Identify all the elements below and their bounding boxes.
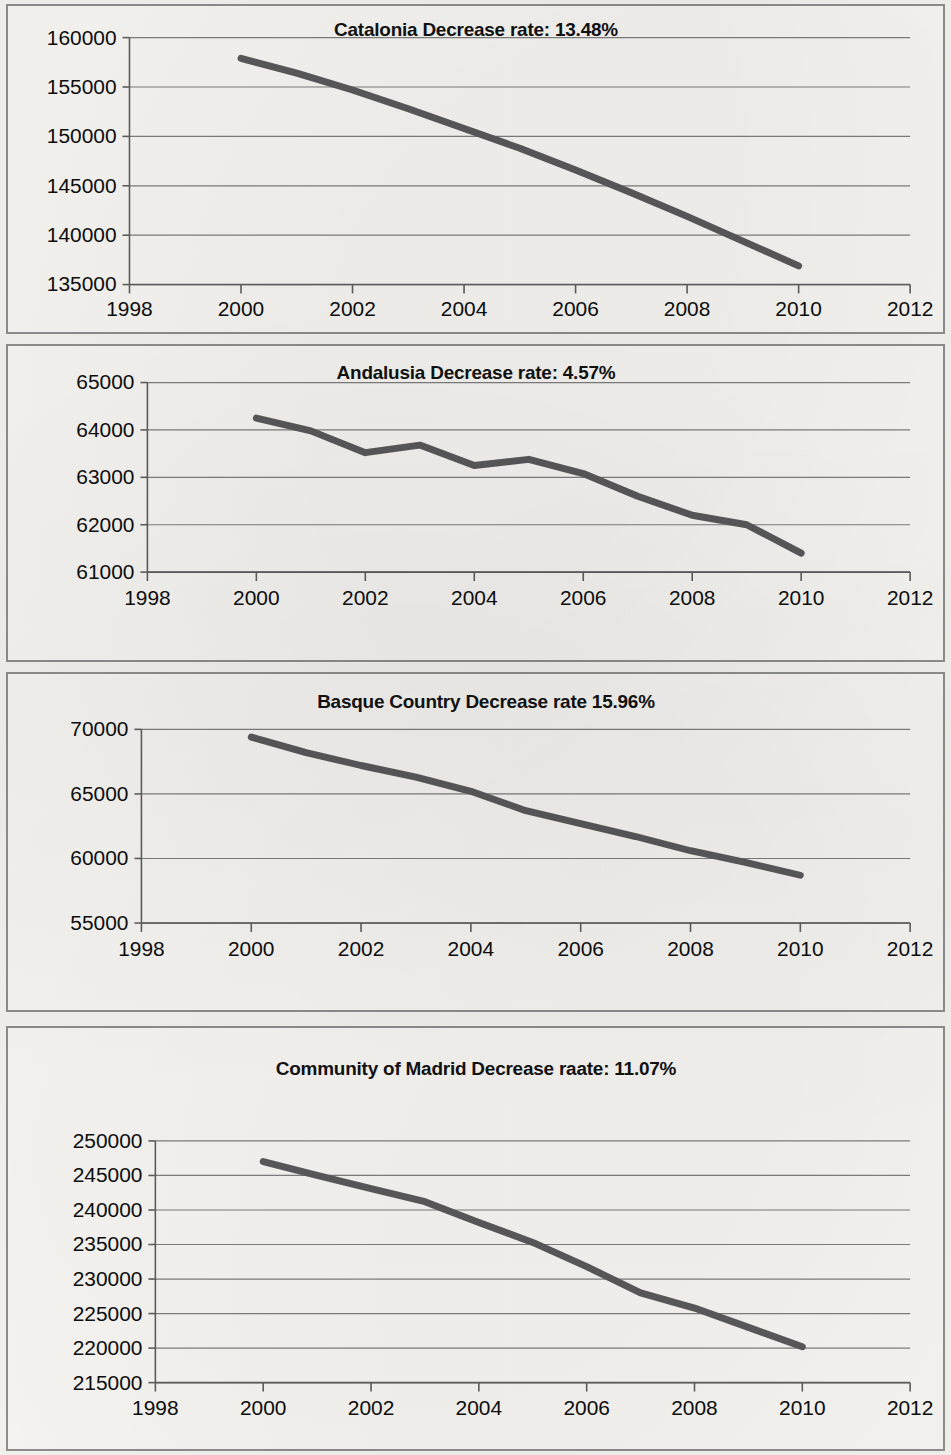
x-axis-tick-label: 2006 bbox=[557, 937, 604, 960]
x-axis-tick-label: 2000 bbox=[233, 586, 280, 609]
x-axis-tick-label: 2000 bbox=[228, 937, 275, 960]
x-axis-tick-label: 1998 bbox=[106, 297, 152, 320]
y-axis-tick-label: 215000 bbox=[73, 1371, 143, 1394]
chart-panel-basque: 5500060000650007000019982000200220042006… bbox=[6, 672, 945, 1012]
chart-panel-madrid: 2150002200002250002300002350002400002450… bbox=[6, 1026, 945, 1451]
community-of-madrid-line-chart: 2150002200002250002300002350002400002450… bbox=[8, 1028, 943, 1449]
data-series-line bbox=[251, 737, 800, 875]
y-axis-tick-label: 225000 bbox=[73, 1302, 143, 1325]
y-axis-tick-label: 55000 bbox=[70, 911, 128, 934]
chart-title: Andalusia Decrease rate: 4.57% bbox=[337, 362, 616, 383]
x-axis-tick-label: 2012 bbox=[887, 937, 934, 960]
x-axis-tick-label: 2010 bbox=[775, 297, 821, 320]
y-axis-tick-label: 65000 bbox=[76, 371, 134, 394]
x-axis-tick-label: 2010 bbox=[777, 937, 824, 960]
x-axis-tick-label: 2004 bbox=[441, 297, 487, 320]
chart-title: Catalonia Decrease rate: 13.48% bbox=[334, 19, 618, 40]
x-axis-tick-label: 2012 bbox=[887, 1396, 933, 1419]
y-axis-tick-label: 235000 bbox=[73, 1232, 143, 1255]
x-axis-tick-label: 2000 bbox=[240, 1396, 286, 1419]
y-axis-tick-label: 240000 bbox=[73, 1198, 143, 1221]
y-axis-tick-label: 145000 bbox=[47, 174, 117, 197]
y-axis-tick-label: 65000 bbox=[70, 782, 128, 805]
x-axis-tick-label: 2000 bbox=[218, 297, 264, 320]
x-axis-tick-label: 2002 bbox=[338, 937, 385, 960]
data-series-line bbox=[263, 1162, 802, 1347]
chart-title: Basque Country Decrease rate 15.96% bbox=[317, 691, 655, 712]
x-axis-tick-label: 2010 bbox=[778, 586, 825, 609]
y-axis-tick-label: 63000 bbox=[76, 465, 134, 488]
x-axis-tick-label: 2012 bbox=[887, 586, 934, 609]
chart-title: Community of Madrid Decrease raate: 11.0… bbox=[276, 1058, 677, 1079]
x-axis-tick-label: 2004 bbox=[448, 937, 495, 960]
y-axis-tick-label: 61000 bbox=[76, 560, 134, 583]
x-axis-tick-label: 2008 bbox=[667, 937, 714, 960]
basque-country-line-chart: 5500060000650007000019982000200220042006… bbox=[8, 674, 943, 1010]
x-axis-tick-label: 2010 bbox=[779, 1396, 825, 1419]
x-axis-tick-label: 2004 bbox=[456, 1396, 502, 1419]
x-axis-tick-label: 1998 bbox=[118, 937, 165, 960]
y-axis-tick-label: 250000 bbox=[73, 1129, 143, 1152]
x-axis-tick-label: 2002 bbox=[329, 297, 375, 320]
x-axis-tick-label: 2004 bbox=[451, 586, 498, 609]
x-axis-tick-label: 2006 bbox=[563, 1396, 609, 1419]
x-axis-tick-label: 2008 bbox=[671, 1396, 717, 1419]
catalonia-line-chart: 1350001400001450001500001550001600001998… bbox=[8, 6, 943, 332]
y-axis-tick-label: 160000 bbox=[47, 26, 117, 49]
x-axis-tick-label: 1998 bbox=[132, 1396, 178, 1419]
x-axis-tick-label: 2002 bbox=[348, 1396, 394, 1419]
y-axis-tick-label: 64000 bbox=[76, 418, 134, 441]
x-axis-tick-label: 2008 bbox=[669, 586, 716, 609]
chart-sheet: 1350001400001450001500001550001600001998… bbox=[0, 0, 951, 1455]
x-axis-tick-label: 2012 bbox=[887, 297, 933, 320]
chart-panel-catalonia: 1350001400001450001500001550001600001998… bbox=[6, 4, 945, 334]
x-axis-tick-label: 1998 bbox=[124, 586, 171, 609]
y-axis-tick-label: 245000 bbox=[73, 1163, 143, 1186]
x-axis-tick-label: 2002 bbox=[342, 586, 389, 609]
y-axis-tick-label: 230000 bbox=[73, 1267, 143, 1290]
x-axis-tick-label: 2006 bbox=[560, 586, 607, 609]
y-axis-tick-label: 62000 bbox=[76, 513, 134, 536]
y-axis-tick-label: 60000 bbox=[70, 846, 128, 869]
y-axis-tick-label: 140000 bbox=[47, 223, 117, 246]
y-axis-tick-label: 70000 bbox=[70, 717, 128, 740]
andalusia-line-chart: 6100062000630006400065000199820002002200… bbox=[8, 346, 943, 660]
x-axis-tick-label: 2006 bbox=[552, 297, 598, 320]
y-axis-tick-label: 135000 bbox=[47, 273, 117, 296]
data-series-line bbox=[256, 418, 801, 553]
x-axis-tick-label: 2008 bbox=[664, 297, 710, 320]
y-axis-tick-label: 220000 bbox=[73, 1336, 143, 1359]
y-axis-tick-label: 155000 bbox=[47, 75, 117, 98]
chart-panel-andalusia: 6100062000630006400065000199820002002200… bbox=[6, 344, 945, 662]
y-axis-tick-label: 150000 bbox=[47, 124, 117, 147]
